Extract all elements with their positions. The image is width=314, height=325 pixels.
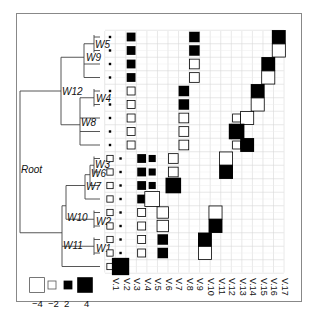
- svg-text:V.4: V.4: [143, 278, 153, 291]
- svg-text:V.17: V.17: [280, 278, 290, 296]
- svg-text:V.2: V.2: [122, 278, 132, 291]
- svg-text:W5: W5: [95, 39, 110, 50]
- svg-text:W9: W9: [86, 52, 101, 63]
- svg-text:W12: W12: [62, 86, 83, 97]
- svg-text:V.11: V.11: [217, 278, 227, 295]
- svg-text:W10: W10: [67, 212, 88, 223]
- svg-text:V.8: V.8: [185, 278, 195, 291]
- svg-text:2: 2: [64, 298, 69, 309]
- size-legend: −4−224: [30, 277, 93, 309]
- svg-text:W11: W11: [63, 240, 83, 251]
- svg-text:W8: W8: [81, 117, 96, 128]
- svg-text:V.13: V.13: [238, 278, 248, 296]
- svg-text:−4: −4: [32, 298, 43, 309]
- svg-text:V.1: V.1: [111, 278, 121, 291]
- dendrogram-matrix-plot: W5W9W12W4W8RootW3W6W7W10W2W11W1 V.1V.2V.…: [0, 0, 314, 325]
- svg-text:W4: W4: [96, 93, 111, 104]
- svg-text:V.14: V.14: [248, 278, 258, 296]
- svg-text:V.12: V.12: [227, 278, 237, 296]
- svg-text:V.5: V.5: [153, 278, 163, 291]
- svg-text:4: 4: [84, 298, 89, 309]
- svg-text:W6: W6: [91, 168, 106, 179]
- column-labels: V.1V.2V.3V.4V.5V.6V.7V.8V.9V.10V.11V.12V…: [111, 278, 290, 296]
- svg-text:V.16: V.16: [269, 278, 279, 296]
- svg-text:W7: W7: [86, 181, 101, 192]
- svg-text:V.10: V.10: [206, 278, 216, 296]
- svg-text:V.7: V.7: [174, 278, 184, 291]
- svg-text:V.9: V.9: [195, 278, 205, 291]
- svg-text:−2: −2: [48, 298, 59, 309]
- svg-text:V.15: V.15: [259, 278, 269, 296]
- svg-text:V.3: V.3: [132, 278, 142, 291]
- matrix-cells: [107, 30, 286, 275]
- svg-text:V.6: V.6: [164, 278, 174, 291]
- svg-text:Root: Root: [21, 164, 43, 175]
- dendrogram: W5W9W12W4W8RootW3W6W7W10W2W11W1: [20, 35, 111, 267]
